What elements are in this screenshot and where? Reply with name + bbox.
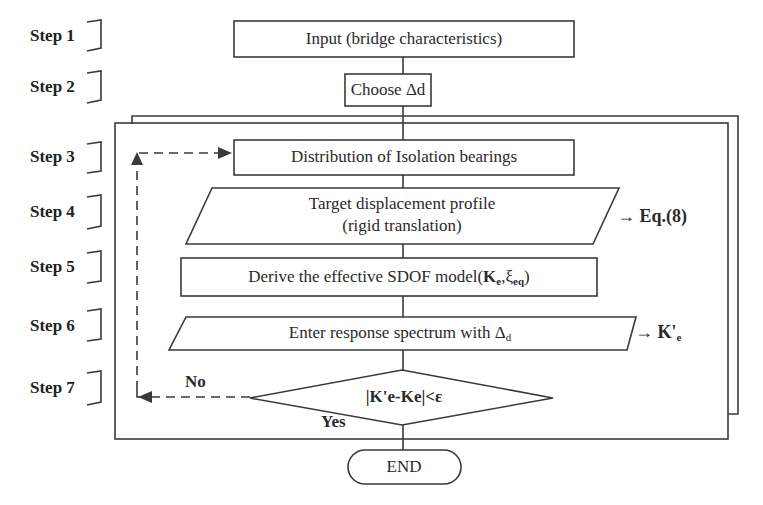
step-4-label: Step 4 [30,202,75,222]
delta-subscript: d [506,331,512,343]
yes-label: Yes [321,412,346,432]
arrow-up-head [131,152,143,165]
xi-subscript: eq [513,275,524,287]
flowchart-shapes [0,0,763,505]
feedback-loop [137,153,250,397]
derive-label: Derive the effective SDOF model( [248,267,483,286]
choose-text: Choose Δd [351,80,426,100]
eq8-annotation: → Eq.(8) [617,206,687,226]
k-symbol: K [483,267,496,286]
distribution-text: Distribution of Isolation bearings [291,147,517,167]
close-paren: ) [524,267,530,286]
derive-text: Derive the effective SDOF model(Ke,ξeq) [248,267,529,291]
step-3-label: Step 3 [30,147,75,167]
step-5-label: Step 5 [30,257,75,277]
decision-text: |K'e-Ke|<ε [366,387,442,407]
choose-prefix: Choose [351,80,406,99]
end-text: END [387,457,422,477]
delta-d-symbol: Δd [406,80,425,99]
target-text-line2: (rigid translation) [342,216,461,236]
step-7-label: Step 7 [30,378,75,398]
enter-text: Enter response spectrum with Δd [289,323,511,347]
step-brackets [87,20,101,405]
kprime-label: → K' [635,322,677,342]
xi-symbol: ξ [505,267,513,286]
enter-label: Enter response spectrum with Δ [289,323,506,342]
step-6-label: Step 6 [30,316,75,336]
target-text-line1: Target displacement profile [309,194,495,214]
arrow-right-head [218,147,232,159]
input-text: Input (bridge characteristics) [306,29,502,49]
step-1-label: Step 1 [30,26,75,46]
no-label: No [185,372,206,392]
step-2-label: Step 2 [30,77,75,97]
kprime-annotation: → K'e [635,322,681,347]
arrow-left-head [138,391,152,403]
kprime-subscript: e [677,331,682,343]
